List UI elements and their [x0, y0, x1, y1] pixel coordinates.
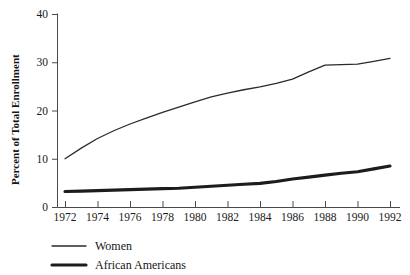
x-tick-label: 1978 — [151, 211, 174, 223]
chart-axes — [58, 14, 401, 208]
y-tick-label: 30 — [37, 56, 49, 68]
x-tick-label: 1976 — [119, 211, 142, 223]
series-line-women — [65, 58, 390, 158]
x-axis-ticks: 1972197419761978198019821984198619881990… — [54, 201, 402, 223]
y-axis-ticks: 010203040 — [37, 8, 58, 213]
x-tick-label: 1988 — [314, 211, 337, 223]
y-axis-title-label: Percent of Total Enrollment — [9, 54, 21, 185]
y-tick-label: 10 — [37, 153, 49, 165]
x-tick-label: 1982 — [216, 211, 239, 223]
y-tick-label: 20 — [37, 105, 49, 117]
y-tick-label: 0 — [42, 201, 48, 213]
x-tick-label: 1984 — [249, 211, 272, 223]
x-tick-label: 1986 — [281, 211, 304, 223]
line-chart: Percent of Total Enrollment 010203040 19… — [0, 0, 410, 275]
x-tick-label: 1990 — [346, 211, 369, 223]
y-axis-title: Percent of Total Enrollment — [9, 54, 21, 185]
y-tick-label: 40 — [37, 8, 49, 20]
x-tick-label: 1992 — [379, 211, 402, 223]
chart-page: Percent of Total Enrollment 010203040 19… — [0, 0, 410, 275]
x-tick-label: 1980 — [184, 211, 207, 223]
chart-series — [65, 58, 390, 191]
x-tick-label: 1974 — [86, 211, 109, 223]
series-line-african-americans — [65, 166, 390, 192]
x-tick-label: 1972 — [54, 211, 77, 223]
